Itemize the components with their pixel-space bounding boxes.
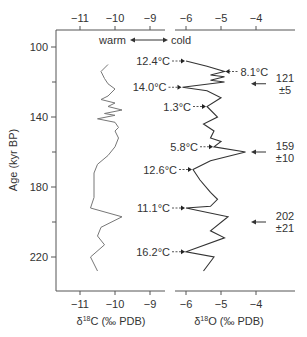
- arrow-left-icon: [130, 38, 135, 43]
- warm-label: warm: [98, 34, 126, 46]
- y-tick-label: 220: [30, 251, 48, 263]
- x-tick-label-top: −6: [180, 12, 193, 24]
- age-marker-arrow-icon: [251, 150, 256, 155]
- age-marker-error: ±21: [276, 222, 294, 234]
- x-tick-label-bottom: −10: [106, 298, 125, 310]
- age-marker-arrow-icon: [251, 220, 256, 225]
- age-marker-value: 202: [276, 210, 294, 222]
- d18c-series-line: [91, 65, 123, 272]
- temperature-label: 1.3°C: [163, 101, 191, 113]
- y-ticks: 100140180220: [30, 41, 56, 263]
- y-tick-label: 180: [30, 181, 48, 193]
- cold-label: cold: [171, 34, 191, 46]
- x-tick-label-bottom: −5: [215, 298, 228, 310]
- annotation-arrow-icon: [178, 85, 182, 90]
- x-tick-label-bottom: −9: [144, 298, 157, 310]
- right-x-axis-title: δ18O (‰ PDB): [194, 315, 264, 327]
- right-x-ticks: −6−6−5−5−4−4: [180, 12, 263, 310]
- paleoclimate-chart: −11−11−10−10−9−9 100140180220 Age (kyr B…: [0, 0, 307, 337]
- temperature-label: 12.6°C: [143, 164, 177, 176]
- temperature-label: 5.8°C: [170, 141, 198, 153]
- temperature-label: 12.4°C: [136, 55, 170, 67]
- age-marker-value: 159: [276, 140, 294, 152]
- temperature-label: 11.1°C: [137, 202, 170, 214]
- warm-cold-legend: warm cold: [98, 34, 191, 46]
- x-tick-label-top: −11: [71, 12, 89, 24]
- x-tick-label-top: −5: [215, 12, 228, 24]
- temperature-label: 14.0°C: [133, 81, 167, 93]
- age-marker-arrow-icon: [251, 81, 256, 86]
- y-tick-label: 100: [30, 41, 48, 53]
- d18o-series-line: [183, 61, 246, 271]
- age-markers: 121±5159±10202±21: [251, 72, 294, 234]
- annotation-arrow-icon: [202, 104, 206, 109]
- x-tick-label-bottom: −11: [71, 298, 89, 310]
- x-tick-label-bottom: −6: [180, 298, 193, 310]
- y-axis-title: Age (kyr BP): [7, 129, 19, 191]
- right-panel: −6−6−5−5−4−4 12.4°C8.1°C14.0°C1.3°C5.8°C…: [133, 12, 295, 327]
- age-marker-error: ±10: [276, 152, 294, 164]
- age-marker-error: ±5: [279, 84, 291, 96]
- arrow-right-icon: [163, 38, 168, 43]
- left-x-axis-title: δ18C (‰ PDB): [77, 315, 146, 327]
- annotation-arrow-icon: [181, 249, 185, 254]
- x-tick-label-top: −10: [106, 12, 125, 24]
- temperature-label: 8.1°C: [241, 66, 269, 78]
- annotation-arrow-icon: [181, 59, 185, 64]
- x-tick-label-top: −9: [144, 12, 157, 24]
- x-tick-label-bottom: −4: [250, 298, 263, 310]
- x-tick-label-top: −4: [250, 12, 263, 24]
- annotation-arrow-icon: [188, 167, 192, 172]
- annotation-arrow-icon: [181, 206, 185, 211]
- annotation-arrow-icon: [209, 144, 213, 149]
- annotation-arrow-icon: [226, 69, 230, 74]
- temperature-label: 16.2°C: [136, 246, 170, 258]
- age-marker-value: 121: [276, 72, 294, 84]
- y-tick-label: 140: [30, 111, 48, 123]
